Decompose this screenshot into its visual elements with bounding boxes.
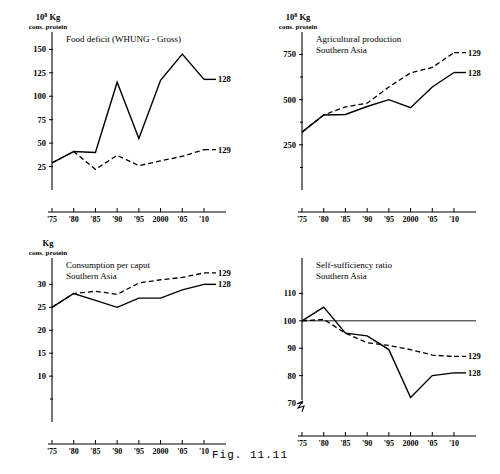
- chart-consumption-per-caput: Kgcons. proteinConsumption per caputSout…: [8, 238, 248, 450]
- x-tick-label: '85: [340, 215, 350, 224]
- y-tick-label: 500: [283, 95, 296, 105]
- chart-panel-self-sufficiency-ratio: Self-sufficiency ratioSouthern Asia70809…: [258, 238, 498, 450]
- x-tick-label: '85: [90, 215, 100, 224]
- x-tick-label: '05: [427, 215, 437, 224]
- x-tick-label: '75: [297, 215, 307, 224]
- series-line-129: [52, 150, 204, 170]
- x-tick-label: '90: [112, 215, 122, 224]
- y-tick-label: 70: [288, 398, 297, 408]
- chart-subtitle: Southern Asia: [66, 271, 117, 281]
- y-tick-label: 30: [38, 279, 47, 289]
- x-tick-label: '85: [340, 439, 350, 448]
- x-tick-label: '90: [362, 439, 372, 448]
- series-label-129: 129: [218, 268, 231, 278]
- series-label-128: 128: [468, 68, 481, 78]
- y-tick-label: 20: [38, 325, 47, 335]
- y-unit-sublabel: cons. protein: [29, 249, 67, 257]
- chart-self-sufficiency-ratio: Self-sufficiency ratioSouthern Asia70809…: [258, 238, 498, 450]
- chart-subtitle: Southern Asia: [316, 271, 367, 281]
- y-tick-label: 10: [38, 371, 47, 381]
- series-line-129: [302, 53, 454, 133]
- x-tick-label: '80: [69, 215, 79, 224]
- x-tick-label: 2000: [153, 215, 169, 224]
- series-line-128: [52, 54, 204, 163]
- y-unit-label: 108 Kg: [286, 12, 311, 22]
- y-unit-sublabel: cons. protein: [29, 23, 67, 31]
- chart-title: Food deficit (WHUNG - Gross): [66, 34, 181, 44]
- series-line-129: [302, 319, 454, 356]
- x-tick-label: '05: [427, 439, 437, 448]
- series-label-128: 128: [468, 368, 481, 378]
- x-tick-label: '90: [362, 215, 372, 224]
- series-label-129: 129: [468, 48, 481, 58]
- series-label-129: 129: [218, 145, 231, 155]
- y-tick-label: 250: [283, 140, 296, 150]
- x-tick-label: 2000: [403, 215, 419, 224]
- y-tick-label: 50: [38, 138, 47, 148]
- chart-food-deficit: 108 Kgcons. proteinFood deficit (WHUNG -…: [8, 2, 248, 232]
- y-tick-label: 90: [288, 343, 297, 353]
- figure-11-11: 108 Kgcons. proteinFood deficit (WHUNG -…: [0, 0, 500, 474]
- x-tick-label: '10: [449, 215, 459, 224]
- x-tick-label: '05: [177, 215, 187, 224]
- x-tick-label: '95: [384, 439, 394, 448]
- x-tick-label: '75: [47, 215, 57, 224]
- chart-subtitle: Southern Asia: [316, 45, 367, 55]
- x-tick-label: '80: [319, 439, 329, 448]
- chart-panel-agricultural-production: 108 Kgcons. proteinAgricultural producti…: [258, 2, 498, 232]
- chart-agricultural-production: 108 Kgcons. proteinAgricultural producti…: [258, 2, 498, 232]
- chart-title: Agricultural production: [316, 34, 402, 44]
- y-unit-sublabel: cons. protein: [279, 23, 317, 31]
- y-tick-label: 80: [288, 371, 297, 381]
- chart-panel-consumption-per-caput: Kgcons. proteinConsumption per caputSout…: [8, 238, 248, 450]
- x-tick-label: '80: [319, 215, 329, 224]
- y-tick-label: 100: [33, 91, 46, 101]
- series-label-128: 128: [218, 74, 231, 84]
- series-line-128: [302, 73, 454, 133]
- x-tick-label: '75: [297, 439, 307, 448]
- y-tick-label: 25: [38, 302, 47, 312]
- series-label-128: 128: [218, 279, 231, 289]
- y-unit-label: 108 Kg: [36, 12, 61, 22]
- chart-title: Self-sufficiency ratio: [316, 260, 393, 270]
- y-tick-label: 25: [38, 162, 47, 172]
- y-tick-label: 100: [283, 316, 296, 326]
- y-tick-label: 750: [283, 49, 296, 59]
- x-tick-label: '10: [449, 439, 459, 448]
- x-tick-label: '95: [384, 215, 394, 224]
- y-tick-label: 150: [33, 44, 46, 54]
- chart-title: Consumption per caput: [66, 260, 150, 270]
- chart-panel-food-deficit: 108 Kgcons. proteinFood deficit (WHUNG -…: [8, 2, 248, 232]
- figure-caption: Fig. 11.11: [0, 449, 500, 461]
- series-line-128: [52, 284, 204, 307]
- y-tick-label: 110: [284, 288, 296, 298]
- x-tick-label: '95: [134, 215, 144, 224]
- series-label-129: 129: [468, 351, 481, 361]
- x-tick-label: 2000: [403, 439, 419, 448]
- y-tick-label: 15: [38, 348, 47, 358]
- y-unit-label: Kg: [43, 238, 55, 248]
- y-tick-label: 75: [38, 115, 47, 125]
- y-tick-label: 125: [33, 68, 46, 78]
- x-tick-label: '10: [199, 215, 209, 224]
